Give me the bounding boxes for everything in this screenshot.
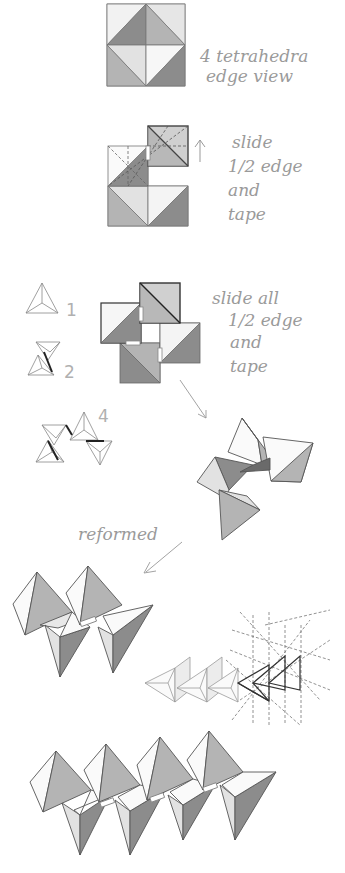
diagonal-arrow-icon <box>180 380 206 418</box>
caption-slide-all-line2: 1/2 edge <box>228 310 303 330</box>
single-tetrahedron-icon <box>26 283 58 313</box>
caption-reformed: reformed <box>78 524 158 544</box>
slide-half-edge-figure <box>108 126 188 226</box>
caption-slide-line3: and <box>228 180 260 200</box>
tetrahedra-chain-figure <box>30 731 276 855</box>
folded-ring-figure <box>197 418 313 540</box>
caption-edge-view-line2: edge view <box>206 66 293 86</box>
reformed-pair-figure <box>13 566 153 677</box>
reformed-arrow-icon <box>144 542 182 573</box>
caption-slide-all-line3: and <box>230 332 262 352</box>
caption-edge-view-line1: 4 tetrahedra <box>199 46 308 66</box>
caption-slide-line1: slide <box>232 132 273 152</box>
caption-slide-all-line4: tape <box>230 356 268 376</box>
double-tetrahedron-icon <box>28 342 60 375</box>
count-label-2: 2 <box>64 362 75 382</box>
caption-slide-all-line1: slide all <box>212 288 279 308</box>
caption-slide-line4: tape <box>228 204 266 224</box>
slide-all-figure <box>101 283 200 383</box>
count-label-4: 4 <box>98 406 109 426</box>
caption-slide-line2: 1/2 edge <box>228 156 303 176</box>
up-arrow-icon <box>195 140 205 162</box>
grid-construction-figure <box>145 610 330 725</box>
count-label-1: 1 <box>66 300 77 320</box>
edge-view-square <box>107 4 185 86</box>
tetrahedra-folding-diagram: 4 tetrahedra edge view slide 1/2 edge an… <box>0 0 345 873</box>
